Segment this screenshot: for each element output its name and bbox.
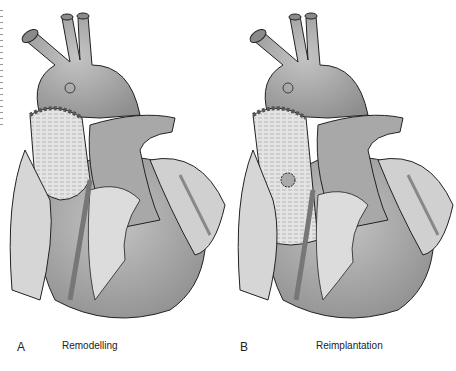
panel-a-letter: A (17, 340, 25, 354)
coronary-button-icon (281, 173, 295, 187)
panel-a-label: Remodelling (62, 340, 118, 351)
heart-illustration-b (228, 0, 456, 330)
panel-a-remodelling-illustration (0, 0, 228, 330)
heart-illustration-a (0, 0, 228, 330)
panel-b-letter: B (240, 340, 248, 354)
panel-b-reimplantation-illustration (228, 0, 456, 330)
panel-b-label: Reimplantation (316, 340, 383, 351)
